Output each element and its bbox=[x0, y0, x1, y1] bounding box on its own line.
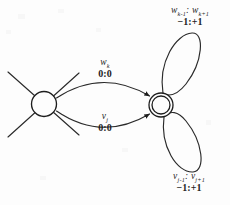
state-start bbox=[32, 92, 57, 117]
self-loop-bottom-label: vj-1: vj+1 −1:+1 bbox=[150, 172, 228, 194]
self-loop-bottom-weight: −1:+1 bbox=[150, 183, 228, 193]
self-loop-top-weight: −1:+1 bbox=[152, 17, 228, 27]
transition-upper-weight: 0:0 bbox=[74, 69, 136, 79]
self-loop-top-label: wk-1: wk+1 −1:+1 bbox=[152, 6, 228, 28]
transition-lower-label: vj 0:0 bbox=[74, 112, 136, 134]
transition-upper-label: wk 0:0 bbox=[74, 58, 136, 80]
transition-upper-arc bbox=[57, 82, 150, 98]
self-loop-top bbox=[162, 33, 200, 95]
automaton-diagram: wk-1: wk+1 −1:+1 vj-1: vj+1 −1:+1 wk 0:0… bbox=[0, 0, 230, 205]
self-loop-bottom bbox=[163, 112, 201, 172]
transition-lower-weight: 0:0 bbox=[74, 123, 136, 133]
